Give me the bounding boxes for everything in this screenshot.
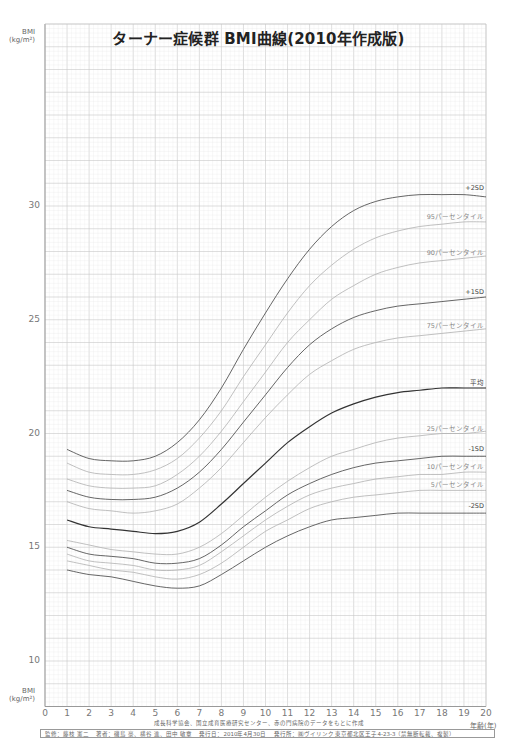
x-tick-label: 13: [322, 708, 342, 718]
curve-label: 90パーセンタイル: [427, 247, 484, 257]
x-tick-label: 5: [145, 708, 165, 718]
credits-footer: 監修：藤枝 憲二 著者：磯島 豪、横谷 進、田中 敏章 発行日：2010年4月3…: [40, 729, 495, 738]
curve--1SD: [67, 456, 486, 564]
x-tick-label: 17: [410, 708, 430, 718]
curve-label: -1SD: [468, 445, 484, 453]
chart-title: ターナー症候群 BMI曲線(2010年作成版): [0, 27, 517, 48]
curve-label: 5パーセンタイル: [431, 479, 484, 489]
x-tick-label: 10: [256, 708, 276, 718]
curve-+2SD: [67, 194, 486, 461]
y-axis-label-bottom: BMI (kg/m²): [5, 687, 35, 703]
x-tick-label: 6: [167, 708, 187, 718]
x-tick-label: 15: [366, 708, 386, 718]
curve-label: +2SD: [465, 184, 484, 192]
curve-10パーセンタイル: [67, 472, 486, 571]
x-tick-label: 3: [101, 708, 121, 718]
y-axis-label-top-line2: (kg/m²): [5, 36, 35, 44]
x-tick-label: 18: [432, 708, 452, 718]
bmi-chart: [0, 0, 517, 749]
y-axis-label-bottom-line1: BMI: [5, 687, 35, 695]
curve-90パーセンタイル: [67, 256, 486, 488]
x-tick-label: 12: [300, 708, 320, 718]
x-tick-label: 2: [79, 708, 99, 718]
x-tick-label: 9: [233, 708, 253, 718]
y-tick-label: 15: [6, 541, 40, 551]
y-tick-label: 10: [6, 655, 40, 665]
x-tick-label: 14: [344, 708, 364, 718]
curve-label: 10パーセンタイル: [427, 461, 484, 471]
x-tick-label: 1: [57, 708, 77, 718]
x-tick-label: 0: [35, 708, 55, 718]
curve-label: 95パーセンタイル: [427, 211, 484, 221]
curve-label: 平均: [470, 377, 484, 387]
x-tick-label: 19: [454, 708, 474, 718]
x-tick-label: 4: [123, 708, 143, 718]
curve-label: 75パーセンタイル: [427, 320, 484, 330]
y-axis-label-top: BMI (kg/m²): [5, 28, 35, 44]
y-axis-label-top-line1: BMI: [5, 28, 35, 36]
curve-5パーセンタイル: [67, 490, 486, 579]
curve-+1SD: [67, 297, 486, 500]
curve-95パーセンタイル: [67, 222, 486, 475]
y-tick-label: 30: [6, 200, 40, 210]
curve-label: +1SD: [465, 288, 484, 296]
curve-label: 25パーセンタイル: [427, 423, 484, 433]
x-tick-label: 16: [388, 708, 408, 718]
y-tick-label: 25: [6, 314, 40, 324]
x-tick-label: 20: [476, 708, 496, 718]
chart-grid: [45, 24, 486, 707]
x-tick-label: 8: [211, 708, 231, 718]
source-note: 成長科学協会、国立成育医療研究センター、赤の門病院のデータをもとに作成: [0, 719, 517, 727]
y-axis-label-bottom-line2: (kg/m²): [5, 695, 35, 703]
x-tick-label: 7: [189, 708, 209, 718]
curve-label: -2SD: [468, 502, 484, 510]
y-tick-label: 20: [6, 428, 40, 438]
x-tick-label: 11: [278, 708, 298, 718]
curve-25パーセンタイル: [67, 431, 486, 554]
